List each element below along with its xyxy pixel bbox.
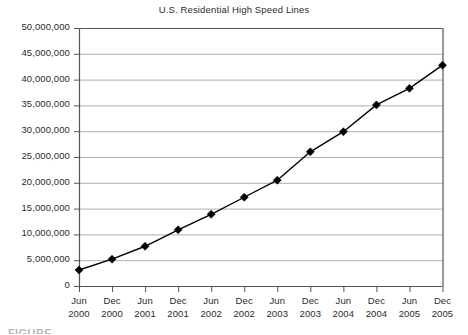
gridlines bbox=[79, 29, 443, 261]
y-axis-tick-label: 35,000,000 bbox=[0, 98, 70, 109]
data-point-marker bbox=[174, 226, 182, 234]
y-axis-tick-label: 20,000,000 bbox=[0, 176, 70, 187]
y-axis-tick-label: 30,000,000 bbox=[0, 124, 70, 135]
y-axis-tick-label: 15,000,000 bbox=[0, 202, 70, 213]
y-axis-tick-label: 5,000,000 bbox=[0, 253, 70, 264]
chart-figure: U.S. Residential High Speed Lines 05,000… bbox=[0, 0, 468, 335]
data-point-marker bbox=[141, 242, 149, 250]
y-axis-tick-label: 40,000,000 bbox=[0, 73, 70, 84]
data-series-line bbox=[79, 65, 443, 270]
data-point-marker bbox=[207, 210, 215, 218]
data-point-marker bbox=[75, 266, 83, 274]
data-point-marker bbox=[108, 255, 116, 263]
x-axis-tick-label: Dec2005 bbox=[424, 294, 462, 320]
y-axis-tick-label: 10,000,000 bbox=[0, 227, 70, 238]
x-tick-year: 2005 bbox=[424, 307, 462, 320]
figure-caption-partial: FIGURE bbox=[8, 327, 460, 334]
y-axis-tick-label: 50,000,000 bbox=[0, 21, 70, 32]
y-axis-tick-label: 45,000,000 bbox=[0, 47, 70, 58]
line-chart-plot bbox=[0, 0, 468, 335]
y-axis-tick-label: 0 bbox=[0, 279, 70, 290]
series-line bbox=[79, 65, 443, 270]
data-point-marker bbox=[240, 193, 248, 201]
data-point-markers bbox=[75, 61, 447, 274]
x-tick-month: Dec bbox=[424, 294, 462, 307]
y-axis-tick-label: 25,000,000 bbox=[0, 150, 70, 161]
